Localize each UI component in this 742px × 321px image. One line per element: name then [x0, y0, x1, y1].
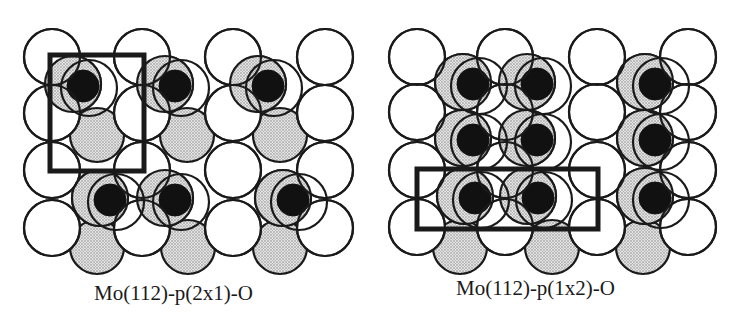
- caption-p2x1: Mo(112)-p(2x1)-O: [94, 281, 253, 306]
- oxygen-atom: [67, 70, 99, 102]
- caption-p1x2: Mo(112)-p(1x2)-O: [456, 276, 615, 301]
- oxygen-atom: [521, 68, 553, 100]
- panel-p2x1: [24, 29, 353, 274]
- oxygen-atom: [459, 182, 491, 214]
- oxygen-atom: [457, 68, 489, 100]
- panel-p1x2: [389, 29, 716, 274]
- surface-structure-diagram: [0, 0, 742, 321]
